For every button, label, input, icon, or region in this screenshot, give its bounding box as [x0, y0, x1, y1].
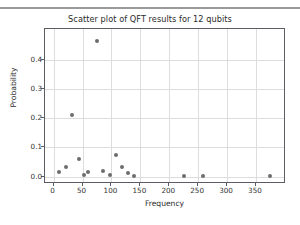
scatter-point	[64, 165, 68, 169]
scatter-point	[120, 165, 124, 169]
y-tick-label: 0.1	[16, 142, 42, 151]
x-tick-label: 250	[182, 186, 212, 195]
gridline-horizontal	[45, 118, 284, 119]
x-tick-label: 0	[38, 186, 68, 195]
scatter-point	[101, 169, 105, 173]
scatter-point	[57, 170, 61, 174]
x-tick-label: 300	[211, 186, 241, 195]
x-tick-label: 100	[95, 186, 125, 195]
scatter-point	[70, 113, 74, 117]
x-axis-title: Frequency	[44, 199, 285, 208]
window-top-bar	[0, 0, 300, 9]
gridline-vertical	[140, 29, 141, 182]
gridline-vertical	[169, 29, 170, 182]
x-tick-label: 50	[67, 186, 97, 195]
gridline-horizontal	[45, 147, 284, 148]
scatter-point	[86, 170, 90, 174]
gridline-horizontal	[45, 177, 284, 178]
gridline-vertical	[83, 29, 84, 182]
scatter-point	[95, 39, 99, 43]
matplotlib-figure: Scatter plot of QFT results for 12 qubit…	[0, 11, 300, 225]
scatter-point	[132, 174, 136, 178]
scatter-point	[108, 173, 112, 177]
gridline-vertical	[227, 29, 228, 182]
scatter-point	[114, 153, 118, 157]
gridline-vertical	[54, 29, 55, 182]
screenshot-page: Scatter plot of QFT results for 12 qubit…	[0, 0, 300, 225]
gridline-vertical	[198, 29, 199, 182]
y-axis-title: Probability	[9, 53, 18, 123]
y-tick-label: 0.4	[16, 54, 42, 63]
y-axis-tick-labels: 0.00.10.20.30.4	[14, 28, 42, 183]
scatter-point	[201, 174, 205, 178]
gridline-horizontal	[45, 60, 284, 61]
gridline-vertical	[111, 29, 112, 182]
gridline-horizontal	[45, 89, 284, 90]
scatter-point	[182, 174, 186, 178]
chart-title: Scatter plot of QFT results for 12 qubit…	[0, 14, 300, 24]
plot-area	[44, 28, 285, 183]
scatter-point	[77, 157, 81, 161]
x-tick-label: 200	[153, 186, 183, 195]
scatter-point	[268, 174, 272, 178]
y-tick-label: 0.2	[16, 113, 42, 122]
x-axis-tick-labels: 050100150200250300350	[44, 183, 285, 197]
y-tick-label: 0.0	[16, 171, 42, 180]
scatter-point	[126, 171, 130, 175]
gridline-vertical	[256, 29, 257, 182]
x-tick-label: 350	[240, 186, 270, 195]
x-tick-label: 150	[124, 186, 154, 195]
y-tick-label: 0.3	[16, 83, 42, 92]
